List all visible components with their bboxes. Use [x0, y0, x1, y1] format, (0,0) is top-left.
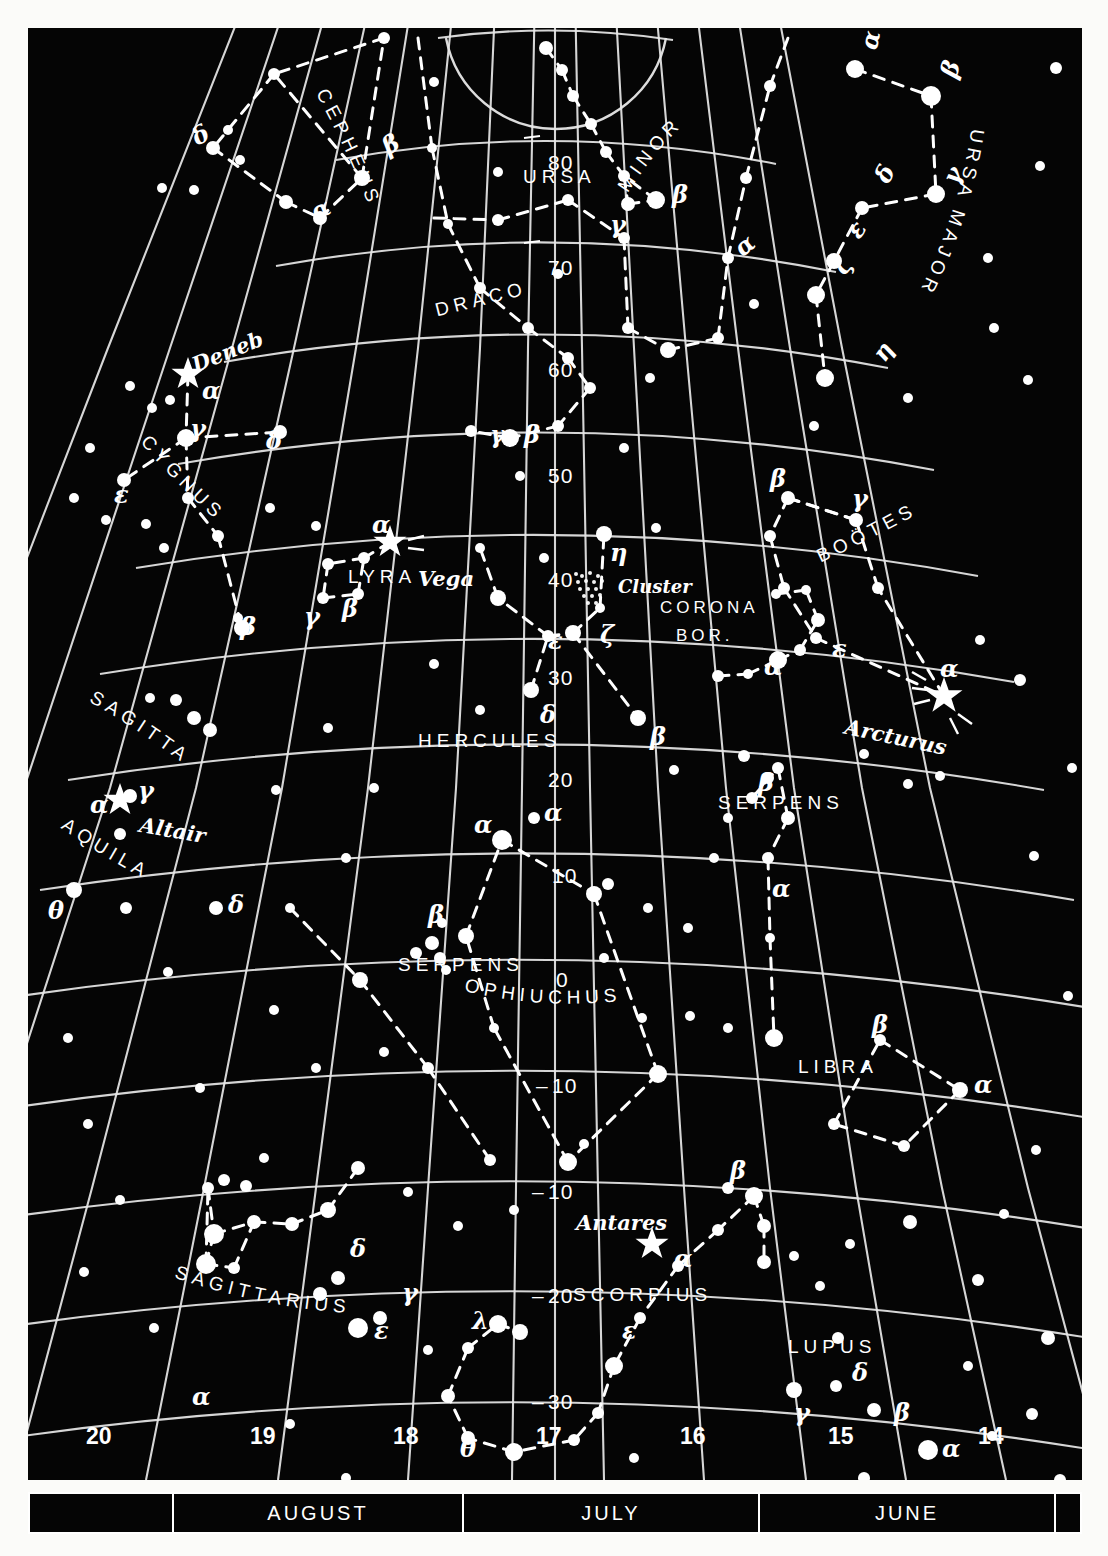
month-cell-june: JUNE [758, 1494, 1054, 1532]
stars-layer [63, 32, 1077, 1480]
line-serpens-cauda [290, 908, 360, 980]
star-chart-page: 80 70 60 50 40 30 20 10 0 10 10 20 30 – … [0, 0, 1108, 1556]
month-cell-blank-left [30, 1494, 172, 1532]
star-antares [636, 1227, 669, 1258]
line-ophiuchus [502, 840, 594, 894]
line-cygnus [186, 374, 188, 438]
month-cell-august: AUGUST [172, 1494, 462, 1532]
sky-canvas [28, 28, 1082, 1480]
month-scale-bar: AUGUST JULY JUNE [28, 1492, 1082, 1534]
right-ascension-gridlines [28, 28, 1082, 1480]
line-cepheus [274, 38, 384, 74]
star-vega [374, 525, 407, 556]
month-cell-july: JULY [462, 1494, 758, 1532]
star-arcturus [926, 677, 963, 712]
line-hercules [531, 636, 548, 690]
line-ursa-major [855, 69, 931, 96]
sky-chart-frame: 80 70 60 50 40 30 20 10 0 10 10 20 30 – … [28, 28, 1082, 1480]
line-draco [418, 38, 432, 148]
bright-star-markers [104, 357, 973, 1258]
month-cell-blank-right [1054, 1494, 1080, 1532]
